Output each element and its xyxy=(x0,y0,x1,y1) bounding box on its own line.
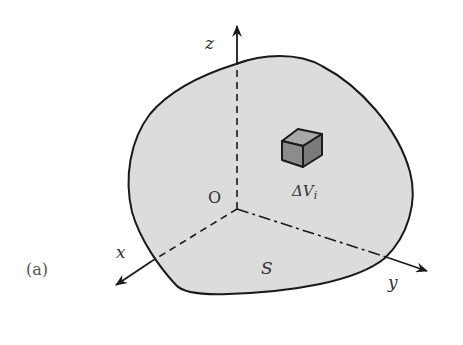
y-axis xyxy=(386,257,427,271)
region-s-label: S xyxy=(261,260,273,277)
volume-element-diagram: z O ΔVi x S y (a) xyxy=(0,0,463,345)
z-axis-label: z xyxy=(205,35,214,52)
diagram-canvas xyxy=(0,0,463,345)
y-axis-label: y xyxy=(388,274,398,291)
origin-label: O xyxy=(208,190,221,206)
volume-element-label: ΔVi xyxy=(292,184,317,201)
volume-element-label-main: ΔV xyxy=(292,182,314,200)
x-axis xyxy=(116,261,152,285)
panel-label: (a) xyxy=(26,262,48,278)
volume-element-label-subscript: i xyxy=(314,189,318,202)
x-axis-label: x xyxy=(116,244,126,261)
